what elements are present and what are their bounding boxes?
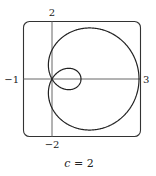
limacon-figure: 2 −2 −1 3 c = 2 <box>0 0 156 176</box>
y-max-label: 2 <box>49 7 55 18</box>
x-max-label: 3 <box>143 74 149 85</box>
x-min-label: −1 <box>4 74 19 85</box>
y-min-label: −2 <box>45 139 60 150</box>
caption: c = 2 <box>64 157 93 170</box>
caption-equation: = 2 <box>70 157 93 170</box>
